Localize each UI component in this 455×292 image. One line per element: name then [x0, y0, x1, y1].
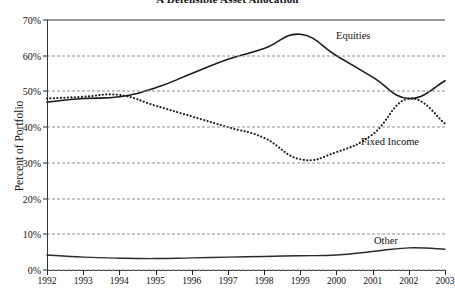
- x-tick-label: 1994: [110, 276, 129, 286]
- x-tick-label: 1997: [218, 276, 237, 286]
- x-tick-label: 2002: [399, 276, 418, 286]
- y-tick-mark: [43, 91, 48, 92]
- gridline: [47, 270, 445, 271]
- x-tick-label: 2001: [363, 276, 382, 286]
- y-tick-mark: [43, 55, 48, 56]
- y-tick-label: 50%: [23, 86, 41, 97]
- gridline: [47, 91, 445, 92]
- gridline: [47, 198, 445, 199]
- series-line-equities: [47, 34, 445, 102]
- y-tick-mark: [43, 234, 48, 235]
- y-tick-label: 60%: [23, 50, 41, 61]
- gridline: [47, 55, 445, 56]
- series-label-equities: Equities: [336, 30, 370, 41]
- x-tick-mark: [192, 270, 193, 275]
- x-tick-mark: [228, 270, 229, 275]
- x-tick-label: 2000: [327, 276, 346, 286]
- y-tick-label: 40%: [23, 122, 41, 133]
- x-tick-mark: [264, 270, 265, 275]
- y-tick-mark: [43, 127, 48, 128]
- x-tick-label: 1999: [291, 276, 310, 286]
- x-tick-label: 2003: [436, 276, 455, 286]
- series-line-other: [47, 248, 445, 259]
- y-tick-mark: [43, 198, 48, 199]
- chart-title: A Defensible Asset Allocation: [0, 0, 455, 5]
- x-tick-mark: [119, 270, 120, 275]
- gridline: [47, 127, 445, 128]
- x-tick-mark: [156, 270, 157, 275]
- y-tick-mark: [43, 20, 48, 21]
- x-tick-mark: [445, 270, 446, 275]
- x-tick-label: 1995: [146, 276, 165, 286]
- y-tick-label: 70%: [23, 15, 41, 26]
- x-tick-mark: [47, 270, 48, 275]
- gridline: [47, 20, 445, 21]
- y-tick-label: 20%: [23, 193, 41, 204]
- x-tick-mark: [409, 270, 410, 275]
- x-tick-label: 1993: [74, 276, 93, 286]
- x-tick-label: 1998: [255, 276, 274, 286]
- series-label-fixed-income: Fixed Income: [361, 136, 419, 147]
- x-tick-mark: [83, 270, 84, 275]
- chart-container: A Defensible Asset Allocation Percent of…: [0, 0, 455, 292]
- x-tick-mark: [373, 270, 374, 275]
- y-tick-label: 0%: [28, 265, 41, 276]
- y-tick-label: 30%: [23, 157, 41, 168]
- series-label-other: Other: [374, 235, 398, 246]
- x-tick-label: 1992: [38, 276, 57, 286]
- x-tick-mark: [336, 270, 337, 275]
- y-tick-label: 10%: [23, 229, 41, 240]
- y-tick-mark: [43, 162, 48, 163]
- gridline: [47, 162, 445, 163]
- x-tick-label: 1996: [182, 276, 201, 286]
- x-tick-mark: [300, 270, 301, 275]
